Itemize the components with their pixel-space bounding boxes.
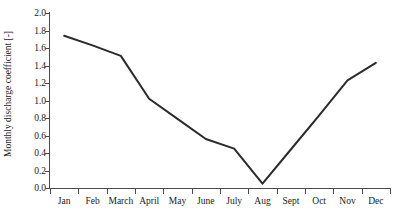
x-tick-mark — [220, 189, 221, 194]
x-tick-label-aug: Aug — [254, 196, 270, 206]
chart-figure: Monthly discharge coefficient [-] 0.00.2… — [0, 0, 407, 216]
x-tick-mark — [305, 189, 306, 194]
x-tick-mark — [192, 189, 193, 194]
x-tick-label-sept: Sept — [282, 196, 299, 206]
x-tick-label-june: June — [197, 196, 214, 206]
y-tick-mark — [45, 13, 50, 14]
x-tick-mark — [333, 189, 334, 194]
x-axis-tick-labels: JanFebMarchAprilMayJuneJulyAugSeptOctNov… — [0, 196, 407, 214]
y-tick-mark — [45, 31, 50, 32]
x-tick-mark — [163, 189, 164, 194]
line-series — [0, 0, 407, 216]
x-tick-mark — [107, 189, 108, 194]
discharge-coefficient-line — [64, 36, 376, 184]
x-tick-label-may: May — [169, 196, 186, 206]
x-tick-label-dec: Dec — [368, 196, 383, 206]
y-tick-mark — [45, 48, 50, 49]
x-tick-mark — [390, 189, 391, 194]
x-tick-label-nov: Nov — [339, 196, 355, 206]
x-tick-mark — [362, 189, 363, 194]
x-tick-label-feb: Feb — [85, 196, 99, 206]
y-tick-mark — [45, 136, 50, 137]
y-tick-mark — [45, 66, 50, 67]
x-tick-label-march: March — [108, 196, 133, 206]
y-tick-mark — [45, 101, 50, 102]
x-tick-mark — [277, 189, 278, 194]
y-tick-mark — [45, 83, 50, 84]
x-tick-label-april: April — [139, 196, 159, 206]
x-tick-label-oct: Oct — [312, 196, 326, 206]
x-tick-mark — [135, 189, 136, 194]
x-tick-mark — [248, 189, 249, 194]
x-tick-mark — [50, 189, 51, 194]
y-tick-mark — [45, 153, 50, 154]
y-tick-mark — [45, 171, 50, 172]
x-tick-label-july: July — [226, 196, 242, 206]
x-tick-label-jan: Jan — [58, 196, 71, 206]
y-tick-mark — [45, 118, 50, 119]
x-tick-mark — [78, 189, 79, 194]
